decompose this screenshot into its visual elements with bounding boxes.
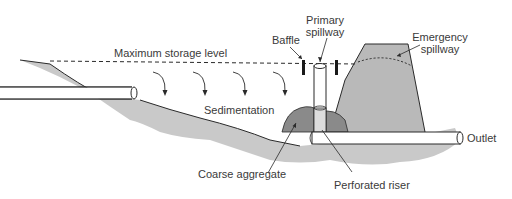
riser-top (314, 64, 326, 69)
label-emergency-spillway-2: spillway (421, 43, 460, 55)
inlet-pipe-body (0, 88, 132, 99)
label-max-storage-level: Maximum storage level (114, 47, 227, 59)
sedimentation-arrows (153, 72, 285, 92)
label-perforated-riser: Perforated riser (334, 179, 410, 191)
label-primary-spillway-1: Primary (306, 14, 344, 26)
arrowhead-icon (283, 90, 288, 96)
baffle-left (302, 60, 305, 75)
arrowhead-icon (243, 90, 248, 96)
max-storage-level-line (50, 61, 358, 64)
label-primary-spillway-2: spillway (306, 26, 345, 38)
outlet-pipe (312, 132, 460, 144)
label-coarse-aggregate: Coarse aggregate (198, 168, 286, 180)
sediment-basin-diagram: Maximum storage level Baffle Primary spi… (0, 0, 512, 199)
label-baffle: Baffle (272, 34, 300, 46)
outlet-pipe-end (457, 132, 463, 144)
sedimentation-arrowheads (163, 90, 288, 96)
arrow-icon (273, 72, 285, 92)
label-sedimentation: Sedimentation (204, 104, 274, 116)
arrow-icon (193, 72, 205, 92)
baffle-right (335, 60, 338, 75)
inlet-pipe-end (131, 87, 137, 99)
arrowhead-icon (163, 90, 168, 96)
label-outlet: Outlet (467, 132, 496, 144)
riser-perforated-section (314, 108, 326, 132)
arrow-icon (153, 72, 165, 92)
arrowhead-icon (203, 90, 208, 96)
label-emergency-spillway-1: Emergency (412, 31, 468, 43)
arrow-icon (233, 72, 245, 92)
